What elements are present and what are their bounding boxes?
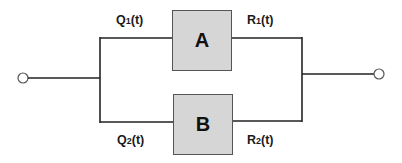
q2-label: Q2(t) bbox=[117, 134, 144, 147]
component-b-box: B bbox=[173, 94, 233, 155]
r2-label: R2(t) bbox=[247, 134, 274, 147]
component-b-label: B bbox=[196, 113, 210, 136]
component-a-label: A bbox=[195, 29, 209, 52]
input-terminal bbox=[18, 73, 28, 83]
output-terminal bbox=[374, 69, 384, 79]
component-a-box: A bbox=[172, 10, 232, 71]
r1-label: R1(t) bbox=[247, 14, 274, 27]
q1-label: Q1(t) bbox=[116, 14, 143, 27]
parallel-system-diagram: A B Q1(t) R1(t) Q2(t) R2(t) bbox=[0, 0, 402, 163]
